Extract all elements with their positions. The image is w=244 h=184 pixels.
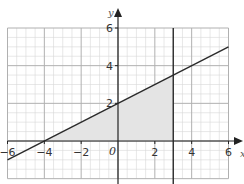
x-tick-label: 4 — [188, 146, 195, 159]
x-tick-label: 2 — [151, 146, 158, 159]
x-tick-label: 6 — [225, 146, 232, 159]
y-tick-label: 2 — [106, 97, 113, 110]
y-tick-label: 4 — [106, 60, 113, 73]
x-tick-label: −6 — [0, 146, 16, 159]
x-axis-label: x — [240, 148, 244, 159]
x-tick-label: −4 — [36, 146, 52, 159]
x-tick-label: −2 — [73, 146, 89, 159]
y-axis-label: y — [107, 7, 114, 18]
y-tick-label: 6 — [106, 22, 113, 35]
graph: −6−4−2246246 x y 0 — [0, 0, 244, 184]
origin-label: 0 — [109, 145, 116, 158]
